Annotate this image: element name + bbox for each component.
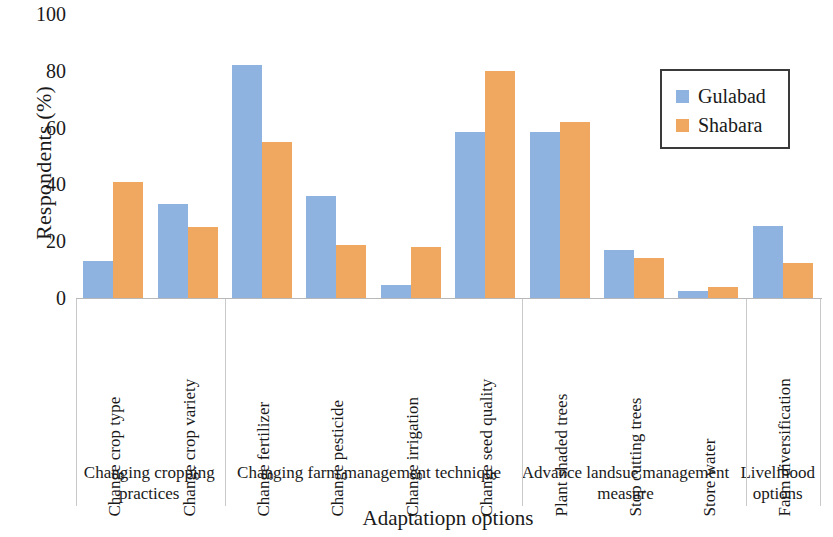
bars-layer (76, 14, 820, 298)
category-label-slot: Change pesticide (299, 299, 373, 457)
bar-gulabad-6 (530, 132, 560, 298)
x-axis-title: Adaptatiopn options (76, 506, 820, 531)
bar-chart: Respondents (%) 100806040200 Change crop… (0, 0, 833, 537)
bar-group (746, 14, 820, 298)
bar-shabara-3 (336, 245, 366, 298)
bar-shabara-8 (708, 287, 738, 298)
bar-gulabad-5 (455, 132, 485, 298)
bar-shabara-2 (262, 142, 292, 298)
bar-shabara-6 (560, 122, 590, 298)
category-label-slot: Farm diversification (746, 299, 820, 457)
y-axis-tick-label: 100 (36, 4, 66, 24)
category-label-slot: Change crop type (76, 299, 150, 457)
bar-group (299, 14, 373, 298)
bar-gulabad-0 (83, 261, 113, 298)
y-axis-tick-label: 0 (56, 288, 66, 308)
group-label-slot: Advance landsue management measure (516, 458, 736, 510)
bar-group (671, 14, 745, 298)
group-label-slot: Livelihood options (735, 458, 820, 510)
bar-gulabad-8 (678, 291, 708, 298)
bar-gulabad-9 (753, 226, 783, 298)
bar-group (597, 14, 671, 298)
bar-group (522, 14, 596, 298)
bar-gulabad-4 (381, 285, 411, 298)
legend: GulabadShabara (660, 69, 790, 149)
y-axis-tick-label: 40 (46, 174, 66, 194)
bar-group (448, 14, 522, 298)
bar-shabara-1 (188, 227, 218, 298)
category-label-slot: Stop cutting trees (597, 299, 671, 457)
bar-shabara-5 (485, 71, 515, 298)
legend-item: Shabara (676, 115, 766, 135)
legend-item: Gulabad (676, 86, 766, 106)
category-label-slot: Change irrigation (374, 299, 448, 457)
bar-gulabad-2 (232, 65, 262, 298)
group-label: Advance landsue management measure (516, 462, 736, 504)
bar-group (76, 14, 150, 298)
group-separator (746, 299, 747, 506)
category-label-slot: Change crop variety (150, 299, 224, 457)
group-label-band: Changing cropping practicesChanging farm… (76, 458, 820, 506)
bar-gulabad-3 (306, 196, 336, 298)
y-axis-tick-label: 60 (46, 118, 66, 138)
bar-shabara-0 (113, 182, 143, 298)
legend-swatch-icon (676, 119, 689, 132)
y-axis-tick-label: 80 (46, 61, 66, 81)
group-label: Changing farm management technique (232, 462, 506, 483)
bar-group (150, 14, 224, 298)
group-separator (522, 299, 523, 506)
bar-gulabad-7 (604, 250, 634, 298)
bar-shabara-4 (411, 247, 441, 298)
bar-shabara-9 (783, 263, 813, 299)
group-label-slot: Changing cropping practices (76, 458, 223, 510)
bar-group (374, 14, 448, 298)
group-separator (225, 299, 226, 506)
category-label-slot: Plant shaded trees (522, 299, 596, 457)
group-label-slot: Changing farm management technique (223, 458, 516, 510)
legend-label: Gulabad (698, 86, 766, 106)
bar-group (225, 14, 299, 298)
bar-gulabad-1 (158, 204, 188, 298)
category-label-slot: Store water (671, 299, 745, 457)
bar-shabara-7 (634, 258, 664, 298)
group-separator (820, 299, 821, 506)
legend-swatch-icon (676, 90, 689, 103)
category-label-slot: Change fertilizer (225, 299, 299, 457)
group-label: Changing cropping practices (76, 462, 223, 504)
category-label-band: Change crop typeChange crop varietyChang… (76, 299, 820, 457)
y-axis-tick-labels: 100806040200 (20, 0, 66, 537)
plot-area (76, 14, 820, 298)
y-axis-tick-label: 20 (46, 231, 66, 251)
category-label-slot: Change seed quality (448, 299, 522, 457)
group-separator (76, 299, 77, 506)
group-label: Livelihood options (735, 462, 820, 504)
legend-label: Shabara (698, 115, 762, 135)
